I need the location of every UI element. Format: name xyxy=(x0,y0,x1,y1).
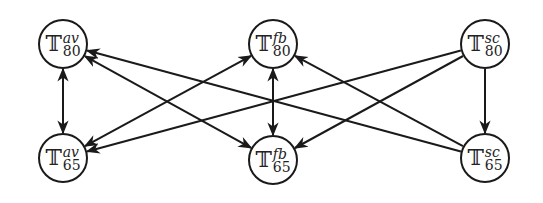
node-label-T80av: 𝕋av80 xyxy=(33,24,93,64)
node-label-T80fb: 𝕋fb80 xyxy=(243,24,303,64)
node-symbol: 𝕋 xyxy=(467,147,483,169)
node-scripts: av80 xyxy=(63,31,81,58)
node-symbol: 𝕋 xyxy=(255,149,271,171)
node-scripts: av65 xyxy=(63,145,81,172)
node-label-T65fb: 𝕋fb65 xyxy=(243,140,303,180)
node-symbol: 𝕋 xyxy=(45,147,61,169)
node-label-T80sc: 𝕋sc80 xyxy=(455,24,515,64)
node-scripts: sc65 xyxy=(485,145,503,172)
node-scripts: fb65 xyxy=(273,147,291,174)
node-label-T65av: 𝕋av65 xyxy=(33,138,93,178)
node-label-T65sc: 𝕋sc65 xyxy=(455,138,515,178)
node-subscript: 65 xyxy=(485,158,503,172)
node-symbol: 𝕋 xyxy=(255,33,271,55)
node-subscript: 65 xyxy=(63,158,81,172)
node-subscript: 80 xyxy=(63,44,81,58)
node-subscript: 80 xyxy=(485,44,503,58)
node-symbol: 𝕋 xyxy=(45,33,61,55)
node-scripts: fb80 xyxy=(273,31,291,58)
node-scripts: sc80 xyxy=(485,31,503,58)
node-symbol: 𝕋 xyxy=(467,33,483,55)
node-subscript: 65 xyxy=(273,160,291,174)
node-subscript: 80 xyxy=(273,44,291,58)
